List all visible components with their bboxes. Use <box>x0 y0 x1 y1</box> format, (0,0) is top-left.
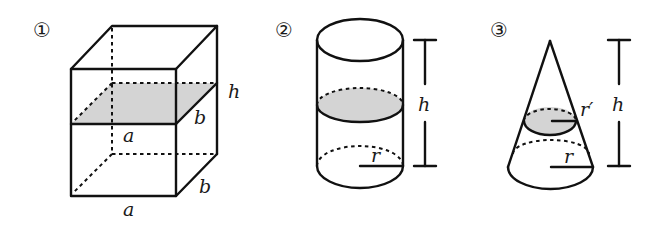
figure-3-cone: ③ r′ r h <box>490 18 630 189</box>
cone-base-visible-arc <box>508 167 593 189</box>
prism-depth-label-top: b <box>194 106 206 128</box>
solid-figures-diagram: ① h b a b a ② <box>0 0 657 227</box>
figure-2-cylinder: ② r h <box>275 18 436 188</box>
figure-3-number: ③ <box>490 18 508 42</box>
figure-1-number: ① <box>33 18 51 42</box>
figure-1-prism: ① h b a b a <box>33 18 240 220</box>
cylinder-bottom-visible-arc <box>317 166 403 188</box>
cone-left-side <box>508 41 550 167</box>
prism-top-face <box>71 26 217 69</box>
cone-radius-label: r <box>564 145 575 167</box>
prism-height-label: h <box>228 80 240 102</box>
cylinder-radius-label: r <box>371 144 382 166</box>
figure-2-number: ② <box>275 18 293 42</box>
cylinder-bottom-hidden-arc <box>317 146 403 166</box>
cone-height-label: h <box>612 93 624 115</box>
prism-depth-label-bottom: b <box>199 175 211 197</box>
cone-section-radius-label: r′ <box>580 98 594 120</box>
prism-hidden-diagonal-edge <box>73 154 112 193</box>
prism-width-label-top: a <box>123 124 134 146</box>
cylinder-height-label: h <box>418 93 430 115</box>
cone-base-hidden-arc <box>513 140 589 154</box>
cylinder-top <box>317 19 403 61</box>
prism-width-label-bottom: a <box>123 198 134 220</box>
